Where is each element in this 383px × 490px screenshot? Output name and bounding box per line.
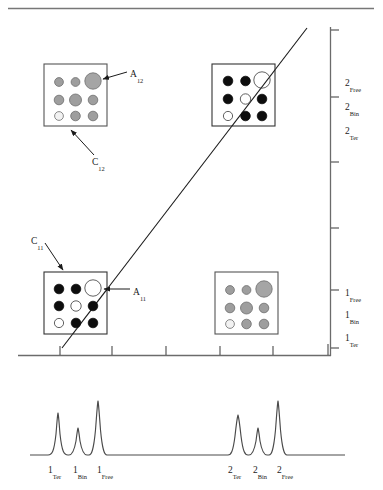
circle-grid-c12 [54,73,101,121]
y-axis-ticks [331,30,339,348]
nmr-figure: A12 C12 C11 A11 2Free 2Bin 2Ter 1Free 1B… [0,0,383,490]
figure-canvas [0,0,383,490]
spectrum-1d [30,401,345,455]
spectrum-trace [30,401,345,455]
cross-peak-box-c12 [44,64,107,126]
x-axis-ticks [60,344,328,355]
leader-c11 [45,243,63,270]
cross-peak-box-c21 [215,272,278,334]
leader-c12 [71,130,94,155]
circle-grid-c21 [225,281,272,329]
